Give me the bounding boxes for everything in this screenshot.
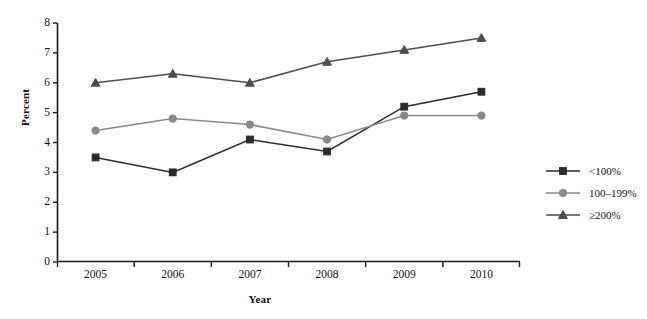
data-point: [401, 112, 408, 119]
legend-label: ≥200%: [581, 209, 621, 221]
data-point: [169, 169, 176, 176]
y-tick-label: 7: [28, 47, 50, 59]
data-point: [478, 112, 485, 119]
legend-item[interactable]: ≥200%: [545, 204, 645, 226]
series-circle: [92, 112, 485, 143]
x-tick-label: 2007: [220, 269, 280, 281]
x-axis-title: Year: [0, 293, 520, 305]
x-tick-label: 2008: [297, 269, 357, 281]
data-point: [169, 115, 176, 122]
legend-item[interactable]: <100%: [545, 160, 645, 182]
y-axis-tick-labels: 012345678: [28, 23, 50, 262]
legend-marker-square-icon: [545, 164, 581, 178]
data-series-group: [91, 34, 486, 176]
y-tick-label: 3: [28, 166, 50, 178]
data-point: [92, 154, 99, 161]
data-point: [246, 121, 253, 128]
axis-lines: [57, 23, 520, 262]
x-tick-label: 2010: [451, 269, 511, 281]
x-axis-tick-labels: 200520062007200820092010: [57, 269, 520, 285]
series-triangle: [91, 34, 486, 87]
data-point: [324, 148, 331, 155]
x-tick-label: 2005: [66, 269, 126, 281]
data-point: [478, 88, 485, 95]
x-axis-ticks: [58, 262, 520, 267]
data-point: [247, 136, 254, 143]
y-tick-label: 2: [28, 196, 50, 208]
y-axis-ticks: [53, 23, 57, 262]
x-tick-label: 2009: [374, 269, 434, 281]
axes-and-series: [57, 23, 520, 262]
y-tick-label: 6: [28, 77, 50, 89]
y-tick-label: 5: [28, 107, 50, 119]
chart-legend: <100%100–199%≥200%: [545, 160, 645, 226]
data-point: [323, 136, 330, 143]
data-point: [477, 34, 486, 42]
legend-marker-circle-icon: [545, 186, 581, 200]
legend-marker-triangle-icon: [545, 208, 581, 222]
data-point: [401, 103, 408, 110]
legend-label: 100–199%: [581, 187, 637, 199]
line-chart: Percent 012345678 2005200620072008200920…: [0, 0, 647, 319]
y-tick-label: 8: [28, 17, 50, 29]
legend-item[interactable]: 100–199%: [545, 182, 645, 204]
legend-label: <100%: [581, 165, 621, 177]
data-point: [92, 127, 99, 134]
plot-area: [57, 23, 520, 262]
y-tick-label: 1: [28, 226, 50, 238]
data-point: [168, 69, 177, 77]
x-tick-label: 2006: [143, 269, 203, 281]
y-tick-label: 0: [28, 256, 50, 268]
y-tick-label: 4: [28, 137, 50, 149]
